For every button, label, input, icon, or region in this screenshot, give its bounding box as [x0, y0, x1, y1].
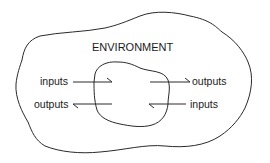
left-outputs-label: outputs — [34, 99, 68, 110]
right-inputs-label: inputs — [190, 99, 218, 110]
arrow-left-inputs — [73, 78, 112, 82]
right-outputs-label: outputs — [192, 76, 226, 87]
system-boundary — [94, 62, 169, 127]
environment-label: ENVIRONMENT — [92, 42, 173, 53]
arrow-right-outputs — [150, 78, 190, 82]
arrow-left-outputs — [73, 104, 112, 108]
left-inputs-label: inputs — [40, 76, 68, 87]
